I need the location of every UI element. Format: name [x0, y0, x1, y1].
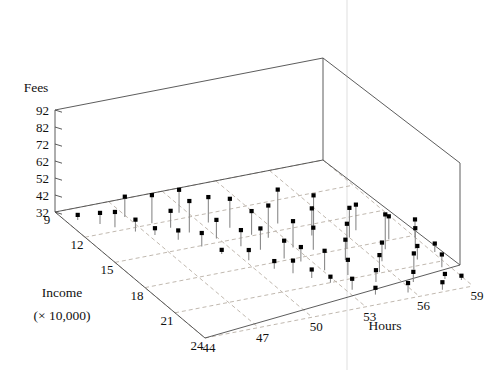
- data-marker: [412, 251, 416, 255]
- data-marker: [214, 218, 218, 222]
- data-marker: [113, 210, 117, 214]
- data-marker: [311, 226, 315, 230]
- data-marker: [310, 206, 314, 210]
- y-tick-label-12: 12: [71, 237, 84, 252]
- data-marker: [459, 274, 463, 278]
- data-marker: [272, 259, 276, 263]
- data-marker: [266, 203, 270, 207]
- data-marker: [249, 209, 253, 213]
- z-tick-82: [55, 127, 62, 129]
- data-marker: [206, 195, 210, 199]
- x-tick-label-47: 47: [256, 330, 270, 345]
- data-marker: [310, 267, 314, 271]
- data-marker: [123, 195, 127, 199]
- data-marker: [440, 252, 444, 256]
- data-marker: [322, 249, 326, 253]
- axis-title-income-units-text: (× 10,000): [33, 308, 90, 323]
- z-tick-label-82: 82: [36, 120, 49, 135]
- floor-gridline-income-24: [205, 286, 473, 338]
- x-tick-label-44: 44: [203, 340, 217, 355]
- z-tick-92: [55, 110, 62, 112]
- floor-gridline-hours-50: [162, 191, 312, 317]
- y-tick-label-9: 9: [44, 212, 51, 227]
- y-tick-label-15: 15: [101, 262, 114, 277]
- x-tick-label-56: 56: [417, 298, 431, 313]
- data-marker: [76, 213, 80, 217]
- data-marker: [276, 187, 280, 191]
- x-tick-label-50: 50: [310, 319, 323, 334]
- z-tick-62: [55, 161, 62, 163]
- data-marker: [177, 188, 181, 192]
- data-marker: [220, 248, 224, 252]
- plot-canvas: 92827262524232Fees91215182124Income(× 10…: [0, 0, 499, 370]
- axis-title-fees-text: Fees: [24, 80, 49, 95]
- box-top-edge-right-wall: [323, 58, 460, 163]
- data-marker: [328, 275, 332, 279]
- data-marker: [291, 259, 295, 263]
- data-marker: [311, 193, 315, 197]
- data-markers: [76, 187, 464, 289]
- data-marker: [176, 228, 180, 232]
- z-tick-label-52: 52: [36, 171, 49, 186]
- box-top-edge-left-wall: [55, 58, 323, 110]
- data-marker: [440, 280, 444, 284]
- z-tick-42: [55, 195, 62, 197]
- data-marker: [153, 226, 157, 230]
- z-tick-label-72: 72: [36, 137, 49, 152]
- y-tick-label-18: 18: [131, 288, 144, 303]
- axes-box-frame: [55, 58, 460, 338]
- data-marker: [374, 268, 378, 272]
- data-marker: [406, 281, 410, 285]
- data-marker: [150, 193, 154, 197]
- data-marker: [169, 209, 173, 213]
- data-marker: [187, 199, 191, 203]
- data-marker: [345, 222, 349, 226]
- floor-gridline-hours-47: [109, 202, 259, 328]
- data-marker: [350, 277, 354, 281]
- data-marker: [247, 248, 251, 252]
- data-marker: [443, 272, 447, 276]
- floor-gridline-income-21: [175, 261, 443, 313]
- floor-gridlines: [55, 160, 473, 338]
- data-marker: [354, 203, 358, 207]
- data-marker: [258, 226, 262, 230]
- z-tick-label-62: 62: [36, 154, 49, 169]
- floor-edge-back-right: [323, 160, 460, 265]
- floor-gridline-income-18: [145, 236, 413, 288]
- data-marker: [239, 228, 243, 232]
- data-marker: [413, 226, 417, 230]
- axis-tick-marks: [55, 110, 62, 214]
- data-marker: [343, 238, 347, 242]
- data-marker: [373, 286, 377, 290]
- data-marker: [347, 206, 351, 210]
- z-tick-72: [55, 144, 62, 146]
- figure-3d-scatter-plot: 92827262524232Fees91215182124Income(× 10…: [0, 0, 499, 370]
- z-tick-label-92: 92: [36, 103, 49, 118]
- floor-gridline-hours-56: [269, 170, 419, 296]
- y-tick-label-21: 21: [161, 313, 174, 328]
- axis-title-hours-text: Hours: [369, 318, 402, 333]
- data-marker: [411, 270, 415, 274]
- x-tick-label-59: 59: [471, 288, 484, 303]
- z-tick-52: [55, 178, 62, 180]
- floor-gridline-hours-53: [216, 181, 366, 307]
- data-marker: [299, 245, 303, 249]
- data-marker: [380, 240, 384, 244]
- data-marker: [346, 258, 350, 262]
- data-marker: [282, 239, 286, 243]
- data-marker: [291, 219, 295, 223]
- data-marker: [387, 214, 391, 218]
- data-marker: [228, 197, 232, 201]
- data-marker: [433, 241, 437, 245]
- data-marker: [133, 218, 137, 222]
- data-marker: [377, 253, 381, 257]
- data-marker: [98, 211, 102, 215]
- data-marker: [415, 244, 419, 248]
- data-marker: [413, 217, 417, 221]
- axis-title-income-text: Income: [42, 285, 82, 300]
- data-marker: [200, 231, 204, 235]
- z-tick-label-42: 42: [36, 188, 49, 203]
